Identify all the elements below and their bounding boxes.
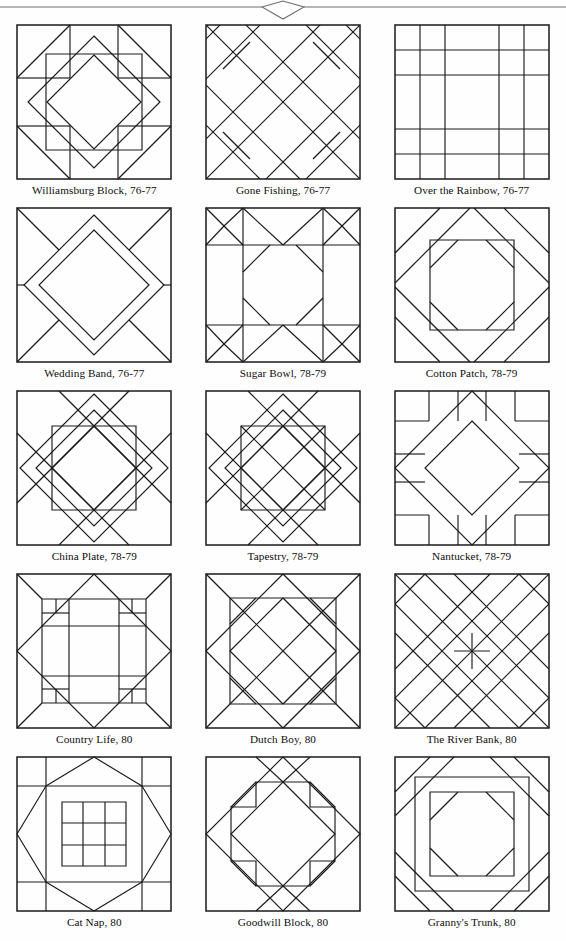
quilt-block-country-life[interactable]: Country Life, 80: [0, 571, 189, 754]
quilt-block-goodwill-block[interactable]: Goodwill Block, 80: [189, 754, 378, 937]
block-diagram-goodwill-block: [200, 754, 366, 914]
header-diamond-icon: [262, 1, 304, 19]
block-caption: Gone Fishing, 76-77: [236, 184, 330, 197]
quilt-block-williamsburg-block[interactable]: Williamsburg Block, 76-77: [0, 22, 189, 205]
block-caption: China Plate, 78-79: [52, 550, 137, 563]
block-caption: Granny's Trunk, 80: [428, 916, 516, 929]
quilt-block-grid: Williamsburg Block, 76-77: [0, 22, 566, 937]
block-diagram-dutch-boy: [200, 571, 366, 731]
block-diagram-wedding-band: [11, 205, 177, 365]
block-diagram-china-plate: [11, 388, 177, 548]
quilt-block-nantucket[interactable]: Nantucket, 78-79: [377, 388, 566, 571]
header-ornament-rule: [0, 0, 566, 22]
block-diagram-gone-fishing: [200, 22, 366, 182]
quilt-block-cat-nap[interactable]: Cat Nap, 80: [0, 754, 189, 937]
block-caption: Country Life, 80: [56, 733, 132, 746]
block-caption: The River Bank, 80: [427, 733, 517, 746]
block-diagram-the-river-bank: [389, 571, 555, 731]
block-caption: Cat Nap, 80: [67, 916, 122, 929]
block-caption: Williamsburg Block, 76-77: [32, 184, 157, 197]
block-diagram-country-life: [11, 571, 177, 731]
block-diagram-grannys-trunk: [389, 754, 555, 914]
block-caption: Cotton Patch, 78-79: [426, 367, 518, 380]
block-caption: Dutch Boy, 80: [250, 733, 316, 746]
block-caption: Wedding Band, 76-77: [44, 367, 144, 380]
block-diagram-sugar-bowl: [200, 205, 366, 365]
block-caption: Sugar Bowl, 78-79: [240, 367, 327, 380]
quilt-block-catalog-page: Williamsburg Block, 76-77: [0, 0, 566, 941]
block-diagram-cat-nap: [11, 754, 177, 914]
quilt-block-cotton-patch[interactable]: Cotton Patch, 78-79: [377, 205, 566, 388]
block-diagram-tapestry: [200, 388, 366, 548]
block-diagram-over-the-rainbow: [389, 22, 555, 182]
block-diagram-williamsburg: [11, 22, 177, 182]
quilt-block-tapestry[interactable]: Tapestry, 78-79: [189, 388, 378, 571]
block-caption: Goodwill Block, 80: [238, 916, 328, 929]
quilt-block-grannys-trunk[interactable]: Granny's Trunk, 80: [377, 754, 566, 937]
block-caption: Tapestry, 78-79: [248, 550, 319, 563]
quilt-block-sugar-bowl[interactable]: Sugar Bowl, 78-79: [189, 205, 378, 388]
quilt-block-gone-fishing[interactable]: Gone Fishing, 76-77: [189, 22, 378, 205]
block-caption: Nantucket, 78-79: [432, 550, 511, 563]
quilt-block-dutch-boy[interactable]: Dutch Boy, 80: [189, 571, 378, 754]
quilt-block-china-plate[interactable]: China Plate, 78-79: [0, 388, 189, 571]
block-diagram-nantucket: [389, 388, 555, 548]
block-diagram-cotton-patch: [389, 205, 555, 365]
quilt-block-wedding-band[interactable]: Wedding Band, 76-77: [0, 205, 189, 388]
quilt-block-over-the-rainbow[interactable]: Over the Rainbow, 76-77: [377, 22, 566, 205]
quilt-block-the-river-bank[interactable]: The River Bank, 80: [377, 571, 566, 754]
block-caption: Over the Rainbow, 76-77: [414, 184, 529, 197]
